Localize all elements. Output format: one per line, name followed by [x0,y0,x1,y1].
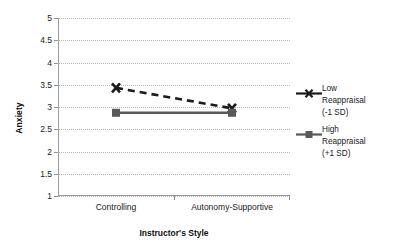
legend-entry-high[interactable]: High Reappraisal (+1 SD) [296,125,392,161]
series-line-low [116,88,232,108]
legend-label-high-line2: Reappraisal [322,137,366,148]
y-tick-label: 2 [47,147,52,157]
y-tick-label: 3 [47,102,52,112]
legend-label-low-line2: Reappraisal [322,96,366,107]
y-tick-label: 4 [47,58,52,68]
y-tick-label: 3.5 [40,80,52,90]
x-tick-label: Autonomy-Supportive [191,202,273,212]
data-point-square-marker [228,109,236,117]
y-tick-label: 1.5 [40,169,52,179]
plot-area: 54.543.532.521.51 ControllingAutonomy-Su… [58,18,290,196]
legend-key-low-x-marker-icon [296,85,322,96]
legend-spacer-low-b [296,109,322,120]
legend-entry-low[interactable]: Low Reappraisal (-1 SD) [296,84,392,120]
legend-label-high-line1: High [322,125,339,136]
x-axis-title: Instructor's Style [58,228,290,238]
legend-label-high-line3: (+1 SD) [322,149,350,160]
y-tick-label: 1 [47,191,52,201]
x-tick-label: Controlling [96,202,137,212]
chart-figure: Anxiety 54.543.532.521.51 ControllingAut… [0,0,397,249]
series-layer [58,18,290,196]
y-tick-label: 4.5 [40,35,52,45]
y-axis-title: Anxiety [14,88,24,148]
legend-label-low-line1: Low [322,84,337,95]
legend-label-low-line3: (-1 SD) [322,108,348,119]
legend-spacer-high-a [296,138,322,149]
data-point-square-marker [112,109,120,117]
legend: Low Reappraisal (-1 SD) High [296,84,392,166]
legend-key-high-square-marker-icon [296,126,322,137]
y-tick-label: 2.5 [40,124,52,134]
legend-spacer-low-a [296,97,322,108]
legend-spacer-high-b [296,150,322,161]
y-tick-mark [54,196,58,197]
y-tick-label: 5 [47,13,52,23]
